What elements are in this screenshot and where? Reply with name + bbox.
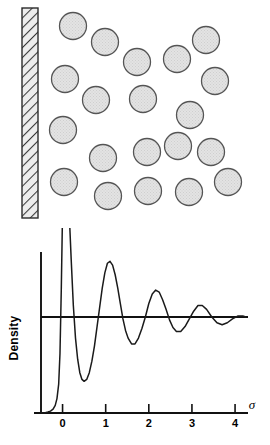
- particle-sphere: [198, 139, 225, 166]
- x-axis-label: σ: [249, 397, 256, 412]
- y-axis-label: Density: [7, 316, 21, 361]
- particle-sphere: [50, 117, 77, 144]
- particle-sphere: [176, 179, 203, 206]
- particle-sphere: [193, 27, 220, 54]
- x-axis-tick-label: 4: [232, 417, 239, 429]
- particle-group: [50, 13, 242, 210]
- hatched-wall: [22, 8, 38, 218]
- density-profile-curve: [41, 228, 246, 413]
- wall-group: [22, 8, 38, 218]
- density-profile-svg: 01234 σ Density: [0, 228, 270, 445]
- x-axis-tick-label: 3: [189, 417, 195, 429]
- particle-sphere: [177, 102, 204, 129]
- particle-sphere: [165, 133, 192, 160]
- particle-sphere: [60, 13, 87, 40]
- x-axis-tick-label: 2: [146, 417, 152, 429]
- particle-sphere: [92, 29, 119, 56]
- particle-sphere: [83, 87, 110, 114]
- figure-container: 01234 σ Density: [0, 0, 270, 445]
- particle-sphere: [90, 145, 117, 172]
- particle-sphere: [124, 49, 151, 76]
- particle-sphere: [134, 139, 161, 166]
- particle-sphere: [95, 183, 122, 210]
- particle-schematic-panel: [0, 0, 270, 228]
- particle-sphere: [164, 46, 191, 73]
- particle-sphere: [202, 68, 229, 95]
- particle-sphere: [52, 66, 79, 93]
- particle-sphere: [215, 169, 242, 196]
- x-axis-tick-label: 1: [103, 417, 109, 429]
- particle-schematic-svg: [0, 0, 270, 228]
- particle-sphere: [51, 169, 78, 196]
- particle-sphere: [135, 178, 162, 205]
- particle-sphere: [130, 86, 157, 113]
- x-axis-tick-label: 0: [60, 417, 66, 429]
- x-axis-ticks: 01234: [60, 404, 240, 429]
- density-profile-panel: 01234 σ Density: [0, 228, 270, 445]
